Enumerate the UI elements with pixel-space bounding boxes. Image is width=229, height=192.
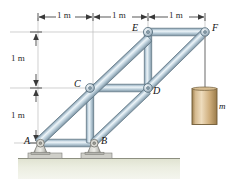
joint-label-B: B xyxy=(101,136,107,146)
joint-label-E: E xyxy=(132,23,138,33)
joint-label-A: A xyxy=(24,136,30,146)
vertical-dimension-lines xyxy=(30,32,42,143)
mass-label: m xyxy=(219,102,226,111)
dim-label-horizontal-3: 1 m xyxy=(169,11,183,20)
dim-label-vertical-2: 1 m xyxy=(11,111,25,120)
joint-label-D: D xyxy=(153,86,160,96)
joint-label-C: C xyxy=(74,79,81,89)
dim-label-vertical-1: 1 m xyxy=(11,54,25,63)
truss-diagram-svg xyxy=(0,0,229,192)
joint-label-F: F xyxy=(212,23,218,33)
ground xyxy=(18,158,180,179)
dim-label-horizontal-2: 1 m xyxy=(112,11,126,20)
dim-label-horizontal-1: 1 m xyxy=(57,11,71,20)
joint-D xyxy=(144,84,153,93)
truss-members xyxy=(35,28,207,147)
truss-figure: 1 m 1 m 1 m 1 m 1 m A B C D E F m xyxy=(0,0,229,192)
member-B-D xyxy=(90,88,150,146)
joint-F xyxy=(201,28,210,37)
member-D-F xyxy=(145,30,207,91)
joint-E xyxy=(143,27,152,36)
joint-C xyxy=(86,84,95,93)
hanging-mass xyxy=(192,36,217,125)
